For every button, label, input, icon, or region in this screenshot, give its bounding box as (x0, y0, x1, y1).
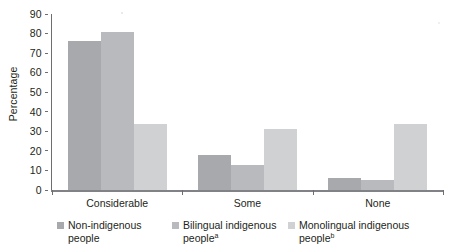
legend-label: Monolingual indigenous peopleb (299, 219, 438, 244)
legend-item[interactable]: Bilingual indigenous peoplea (172, 219, 284, 244)
legend-item[interactable]: Monolingual indigenous peopleb (288, 219, 438, 244)
y-axis-tick-label: 0 (36, 184, 42, 195)
y-axis-tick-label: 80 (30, 28, 42, 39)
y-axis-title: Percentage (7, 34, 19, 154)
x-axis-tick-label: Some (182, 197, 312, 209)
y-axis-tick-mark (45, 72, 49, 73)
x-axis-tick-mark (182, 190, 183, 195)
legend-label: Bilingual indigenous peoplea (183, 219, 284, 244)
y-axis-tick-label: 10 (30, 165, 42, 176)
y-axis-tick-mark (45, 92, 49, 93)
y-axis-tick-label: 50 (30, 86, 42, 97)
bars-layer (52, 14, 443, 190)
x-axis-tick-labels: ConsiderableSomeNone (52, 197, 443, 213)
y-axis-tick-label: 40 (30, 106, 42, 117)
x-axis-tick-mark (443, 190, 444, 195)
x-axis-tick-label: None (313, 197, 443, 209)
bar-chart-figure: Percentage 0102030405060708090 Considera… (0, 0, 449, 252)
plot-area: Percentage 0102030405060708090 Considera… (0, 0, 449, 215)
bar-group (182, 14, 312, 190)
bar (134, 124, 167, 190)
chart-legend: Non-indigenous peopleBilingual indigenou… (0, 219, 449, 252)
bar (264, 129, 297, 190)
y-axis-tick-label: 70 (30, 47, 42, 58)
legend-color-swatch (57, 222, 64, 229)
y-axis-tick-label: 20 (30, 145, 42, 156)
bar (198, 155, 231, 190)
y-axis-tick-mark (45, 111, 49, 112)
bar (68, 41, 101, 190)
x-axis-tick-mark (52, 190, 53, 195)
bar (394, 124, 427, 190)
legend-footnote-marker: b (331, 231, 335, 238)
y-axis-tick-mark (45, 190, 49, 191)
scan-artifact-speck (438, 22, 440, 24)
y-axis-tick-mark (45, 14, 49, 15)
bar-group (313, 14, 443, 190)
legend-color-swatch (288, 222, 295, 229)
y-axis-tick-mark (45, 53, 49, 54)
scan-artifact-speck (121, 12, 123, 14)
y-axis-tick-mark (45, 33, 49, 34)
y-axis-tick-labels: 0102030405060708090 (22, 14, 48, 190)
bar (101, 32, 134, 190)
y-axis-tick-mark (45, 150, 49, 151)
x-axis-tick-mark (313, 190, 314, 195)
y-axis-tick-label: 90 (30, 8, 42, 19)
legend-color-swatch (172, 222, 179, 229)
y-axis-tick-mark (45, 131, 49, 132)
bar (361, 180, 394, 190)
legend-label: Non-indigenous people (68, 219, 169, 244)
legend-footnote-marker: a (215, 231, 219, 238)
y-axis-tick-label: 30 (30, 126, 42, 137)
bar-group (52, 14, 182, 190)
bar (231, 165, 264, 190)
x-axis-tick-label: Considerable (52, 197, 182, 209)
y-axis-tick-mark (45, 170, 49, 171)
y-axis-tick-label: 60 (30, 67, 42, 78)
legend-item[interactable]: Non-indigenous people (57, 219, 169, 244)
x-axis-line (51, 190, 443, 192)
bar (328, 178, 361, 190)
